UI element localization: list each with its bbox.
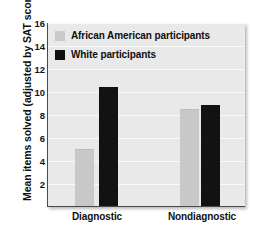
legend-label-white: White participants xyxy=(71,49,156,60)
legend-swatch-gray-icon xyxy=(55,31,65,41)
x-tick-diagnostic: Diagnostic xyxy=(49,211,145,222)
bar-diagnostic-african-american xyxy=(75,149,94,208)
gridline-12 xyxy=(47,69,245,70)
y-tick-4: 4 xyxy=(19,157,45,167)
y-tick-12: 12 xyxy=(19,65,45,75)
x-tick-nondiagnostic: Nondiagnostic xyxy=(150,211,254,222)
y-tick-2: 2 xyxy=(19,180,45,190)
gridline-10 xyxy=(47,92,245,93)
y-tick-6: 6 xyxy=(19,134,45,144)
plot-area: African American participants White part… xyxy=(47,23,245,207)
legend-label-african-american: African American participants xyxy=(71,30,210,41)
y-tick-8: 8 xyxy=(19,111,45,121)
bar-nondiagnostic-african-american xyxy=(180,109,199,207)
gridline-16 xyxy=(47,23,245,24)
legend-item-african-american: African American participants xyxy=(55,26,210,45)
bar-diagnostic-white xyxy=(99,87,118,207)
legend: African American participants White part… xyxy=(55,26,210,64)
y-tick-14: 14 xyxy=(19,42,45,52)
y-axis-tick-labels: 16 14 12 10 8 6 4 2 xyxy=(17,0,45,238)
bar-nondiagnostic-white xyxy=(201,105,220,207)
y-tick-16: 16 xyxy=(19,19,45,29)
legend-item-white: White participants xyxy=(55,45,210,64)
y-tick-10: 10 xyxy=(19,88,45,98)
bar-chart-figure: Mean items solved (adjusted by SAT score… xyxy=(0,0,261,238)
legend-swatch-black-icon xyxy=(55,50,65,60)
